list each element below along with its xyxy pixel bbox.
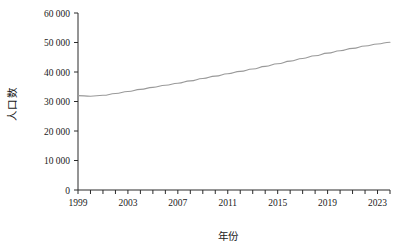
y-tick-label: 10 000 xyxy=(44,156,70,166)
x-axis-title: 年份 xyxy=(218,230,239,242)
x-tick-label: 2011 xyxy=(218,198,237,208)
x-axis-tick-labels: 1999200320072011201520192023 xyxy=(69,198,388,208)
x-tick-label: 2007 xyxy=(168,198,187,208)
chart-canvas: 010 00020 00030 00040 00050 00060 000 19… xyxy=(0,0,402,248)
y-tick-label: 20 000 xyxy=(44,127,70,137)
plot-area: 010 00020 00030 00040 00050 00060 000 19… xyxy=(44,9,390,209)
x-tick-label: 2019 xyxy=(318,198,337,208)
y-tick-label: 0 xyxy=(65,186,70,196)
x-axis-ticks xyxy=(78,190,390,194)
population-data-line xyxy=(78,42,390,96)
y-tick-label: 60 000 xyxy=(44,9,70,19)
y-tick-label: 30 000 xyxy=(44,97,70,107)
y-axis-ticks xyxy=(74,13,78,190)
x-tick-label: 2015 xyxy=(268,198,287,208)
y-tick-label: 50 000 xyxy=(44,38,70,48)
y-tick-label: 40 000 xyxy=(44,68,70,78)
population-line-chart: 010 00020 00030 00040 00050 00060 000 19… xyxy=(0,0,402,248)
y-axis-title: 人口数 xyxy=(6,87,18,122)
y-axis-tick-labels: 010 00020 00030 00040 00050 00060 000 xyxy=(44,9,70,196)
x-tick-label: 2023 xyxy=(368,198,387,208)
x-tick-label: 2003 xyxy=(118,198,137,208)
x-tick-label: 1999 xyxy=(69,198,88,208)
